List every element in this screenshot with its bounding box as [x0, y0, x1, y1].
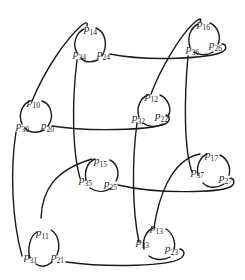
label-p25: p25 [103, 177, 117, 192]
strand-p30-p31 [13, 132, 22, 256]
node-loops [20, 23, 229, 266]
label-p11: p11 [35, 226, 49, 241]
strand-p25-p27 [118, 178, 234, 192]
label-p33: p33 [135, 235, 149, 250]
strand-p36-p37 [185, 56, 192, 172]
knot-diagram: p10 p30 p20 p14 p34 p24 p16 p36 p26 p12 … [0, 0, 245, 280]
strand-p32-p33 [133, 123, 139, 242]
strand-p11-p15 [41, 159, 92, 218]
label-p17: p17 [204, 148, 218, 163]
label-p34: p34 [72, 47, 86, 62]
label-p12: p12 [144, 89, 158, 104]
label-p36: p36 [185, 42, 199, 57]
label-p16: p16 [196, 17, 210, 32]
label-p22: p22 [154, 109, 168, 124]
strand-p34-p35 [74, 60, 80, 178]
label-p15: p15 [93, 154, 107, 169]
label-p27: p27 [218, 171, 232, 186]
label-p31: p31 [23, 250, 37, 265]
label-p13: p13 [149, 221, 163, 236]
strand-p20-p22 [52, 115, 169, 130]
label-p20: p20 [40, 119, 54, 134]
label-p26: p26 [208, 38, 222, 53]
label-p14: p14 [83, 22, 97, 37]
strands [13, 19, 234, 265]
label-p30: p30 [15, 119, 29, 134]
label-p23: p23 [164, 242, 178, 257]
